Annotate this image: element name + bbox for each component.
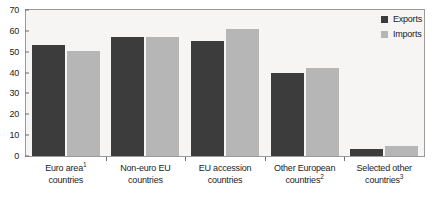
y-axis-tick-label: 10 (9, 130, 19, 140)
y-axis-tick-label: 20 (9, 109, 19, 119)
bar-groups (26, 10, 424, 156)
x-axis-tick-mark (106, 157, 107, 161)
x-axis-labels: Euro area1countriesNon-euro EUcountriesE… (26, 163, 424, 186)
x-axis-label: EU accessioncountries (185, 163, 265, 186)
x-axis-label: Other Europeancountries2 (265, 163, 345, 186)
bar-group (26, 10, 106, 156)
bar-group (265, 10, 345, 156)
bar-imports (385, 146, 418, 156)
y-axis-tick-mark (25, 114, 29, 115)
y-axis-tick-label: 70 (9, 5, 19, 15)
bar-imports (146, 37, 179, 156)
bar-imports (226, 29, 259, 156)
y-axis-tick-label: 60 (9, 26, 19, 36)
bar-exports (32, 45, 65, 156)
bar-exports (191, 41, 224, 156)
legend-item-exports: Exports (381, 14, 422, 24)
legend-swatch-icon (381, 31, 388, 38)
y-axis-tick-label: 30 (9, 88, 19, 98)
bar-imports (67, 51, 100, 156)
legend-label: Imports (393, 29, 422, 39)
y-axis-tick-label: 50 (9, 47, 19, 57)
y-axis-tick-mark (25, 10, 29, 11)
x-axis-label: Selected othercountries3 (344, 163, 424, 186)
bar-group (185, 10, 265, 156)
y-axis-tick-mark (25, 135, 29, 136)
legend-label: Exports (393, 14, 422, 24)
x-axis-tick-mark (185, 157, 186, 161)
x-axis-tick-mark (344, 157, 345, 161)
y-axis-tick-mark (25, 93, 29, 94)
x-axis-label: Non-euro EUcountries (106, 163, 186, 186)
y-axis-tick-mark (25, 156, 29, 157)
y-axis-tick-mark (25, 30, 29, 31)
y-axis-tick-label: 0 (14, 151, 19, 161)
legend-item-imports: Imports (381, 29, 422, 39)
y-axis-tick-mark (25, 51, 29, 52)
x-axis-label: Euro area1countries (26, 163, 106, 186)
bar-exports (271, 73, 304, 156)
y-axis-tick-label: 40 (9, 68, 19, 78)
y-axis: 706050403020100 (0, 9, 25, 157)
legend-swatch-icon (381, 16, 388, 23)
legend: ExportsImports (381, 14, 422, 39)
y-axis-tick-mark (25, 72, 29, 73)
grouped-bar-chart: 706050403020100 Euro area1countriesNon-e… (0, 0, 435, 204)
bar-exports (350, 149, 383, 156)
bar-group (106, 10, 186, 156)
bar-imports (306, 68, 339, 156)
x-axis-tick-mark (265, 157, 266, 161)
bar-exports (111, 37, 144, 156)
